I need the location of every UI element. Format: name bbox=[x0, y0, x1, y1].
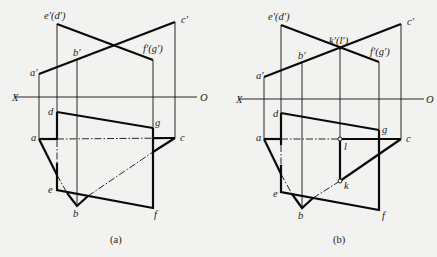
caption-b: (b) bbox=[333, 234, 346, 246]
label-c-prime-a: c′ bbox=[181, 14, 189, 25]
label-c-prime-b: c′ bbox=[407, 16, 415, 27]
label-a-a: a bbox=[31, 132, 36, 143]
label-f-a: f bbox=[154, 209, 159, 220]
caption-a: (a) bbox=[110, 234, 122, 246]
line-efg-a bbox=[57, 128, 153, 208]
label-e-b: e bbox=[273, 188, 278, 199]
line-bc-right-a bbox=[153, 138, 175, 152]
line-dg-a bbox=[57, 112, 153, 128]
label-a-prime-b: a′ bbox=[256, 70, 264, 81]
label-e-a: e bbox=[48, 184, 53, 195]
label-f-b: f bbox=[382, 210, 387, 221]
projection-drawing: X O e′(d′) c′ b′ f′(g′) a′ d g a c bbox=[0, 0, 437, 257]
label-d-b: d bbox=[273, 108, 279, 119]
point-k-prime-b bbox=[338, 46, 341, 49]
figure-b: X O e′(d′) k′(l′) c′ b′ bbox=[235, 11, 434, 246]
label-l-b: l bbox=[344, 141, 347, 152]
label-g-a: g bbox=[155, 117, 160, 128]
figure-a: X O e′(d′) c′ b′ f′(g′) a′ d g a c bbox=[11, 10, 208, 246]
label-e-prime-d-prime-a: e′(d′) bbox=[44, 10, 66, 22]
point-k-b bbox=[338, 179, 342, 183]
label-b-b: b bbox=[298, 210, 303, 221]
line-kc-b bbox=[340, 139, 401, 181]
label-f-prime-g-prime-a: f′(g′) bbox=[143, 43, 163, 55]
line-ab-hidden-b bbox=[281, 174, 292, 194]
label-e-prime-d-prime-b: e′(d′) bbox=[268, 11, 290, 23]
line-bc-hidden-a bbox=[88, 152, 153, 196]
label-o-a: O bbox=[200, 92, 208, 103]
line-ac-hidden-a bbox=[57, 138, 153, 139]
label-k-b: k bbox=[344, 180, 349, 191]
line-e-prime-f-prime-a bbox=[57, 24, 153, 60]
label-x-b: X bbox=[235, 94, 243, 105]
label-k-prime-l-prime-b: k′(l′) bbox=[329, 35, 349, 47]
label-a-prime-a: a′ bbox=[30, 67, 38, 78]
label-c-a: c bbox=[180, 132, 185, 143]
label-a-b: a bbox=[256, 132, 261, 143]
label-f-prime-g-prime-b: f′(g′) bbox=[370, 46, 390, 58]
line-ab-upper-a bbox=[39, 139, 57, 175]
label-b-a: b bbox=[73, 208, 78, 219]
label-b-prime-a: b′ bbox=[73, 47, 81, 58]
label-d-a: d bbox=[48, 106, 54, 117]
line-dg-b bbox=[281, 113, 379, 130]
label-g-b: g bbox=[382, 124, 387, 135]
label-b-prime-b: b′ bbox=[298, 50, 306, 61]
label-o-b: O bbox=[426, 94, 434, 105]
line-bk-hidden-b bbox=[313, 181, 340, 198]
label-c-b: c bbox=[406, 133, 411, 144]
point-l-b bbox=[338, 137, 342, 141]
label-x-a: X bbox=[11, 92, 19, 103]
line-ab-upper-b bbox=[264, 139, 281, 174]
